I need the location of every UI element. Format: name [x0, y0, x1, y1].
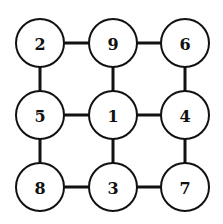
- node-label: 7: [179, 179, 190, 198]
- node-2: 2: [16, 19, 64, 67]
- node-5: 5: [16, 91, 64, 139]
- node-label: 6: [179, 35, 190, 54]
- node-3: 3: [89, 163, 137, 211]
- node-6: 6: [161, 19, 209, 67]
- node-label: 1: [107, 107, 118, 126]
- node-label: 2: [34, 35, 45, 54]
- node-1: 1: [89, 91, 137, 139]
- grid-graph-diagram: 296514837: [0, 0, 223, 224]
- node-label: 5: [34, 107, 45, 126]
- graph-canvas: 296514837: [0, 0, 223, 224]
- node-7: 7: [161, 163, 209, 211]
- node-label: 4: [179, 107, 190, 126]
- node-8: 8: [16, 163, 64, 211]
- node-label: 9: [107, 35, 118, 54]
- node-9: 9: [89, 19, 137, 67]
- node-label: 8: [34, 179, 45, 198]
- nodes-group: 296514837: [16, 19, 209, 211]
- node-label: 3: [107, 179, 118, 198]
- node-4: 4: [161, 91, 209, 139]
